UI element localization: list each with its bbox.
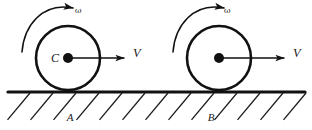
wheel-left-omega-label: ω bbox=[75, 6, 82, 15]
rolling-wheels-figure: C V ω A V ω B bbox=[0, 0, 312, 130]
wheel-left-center-label: C bbox=[51, 51, 60, 65]
contact-point-a-label: A bbox=[66, 111, 74, 123]
wheel-left-center-dot bbox=[63, 53, 73, 63]
contact-point-b-label: B bbox=[208, 111, 215, 123]
wheel-right-center-dot bbox=[214, 53, 224, 63]
wheel-right-omega-label: ω bbox=[224, 6, 231, 15]
figure-canvas: C V ω A V ω B bbox=[0, 0, 312, 130]
figure-background bbox=[0, 0, 312, 130]
